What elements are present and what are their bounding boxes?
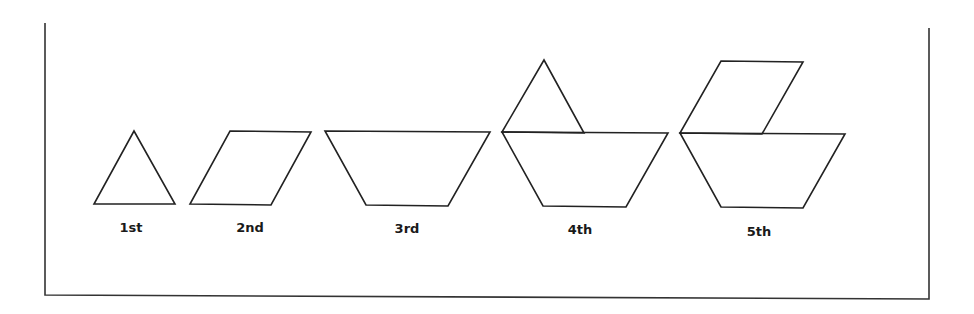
frame-border	[45, 23, 929, 299]
figure-5-shapes	[680, 61, 845, 208]
rhombus-shape	[680, 61, 803, 134]
figure-5-label: 5th	[747, 224, 772, 239]
figure-1-shapes	[94, 131, 175, 204]
figure-3-label: 3rd	[395, 221, 420, 236]
trapezoid-shape	[502, 132, 668, 207]
figure-2-shapes	[190, 131, 311, 205]
figure-1-label: 1st	[120, 220, 143, 235]
rhombus-shape	[190, 131, 311, 205]
trapezoid-shape	[680, 133, 845, 208]
triangle-shape	[502, 60, 584, 133]
triangle-shape	[94, 131, 175, 204]
figure-4-label: 4th	[568, 222, 593, 237]
figure-3-shapes	[325, 131, 490, 206]
figure-4-shapes	[502, 60, 668, 207]
trapezoid-shape	[325, 131, 490, 206]
diagram-canvas	[0, 0, 974, 314]
figure-2-label: 2nd	[236, 220, 264, 235]
pattern-diagram: 1st 2nd 3rd 4th 5th	[0, 0, 974, 314]
